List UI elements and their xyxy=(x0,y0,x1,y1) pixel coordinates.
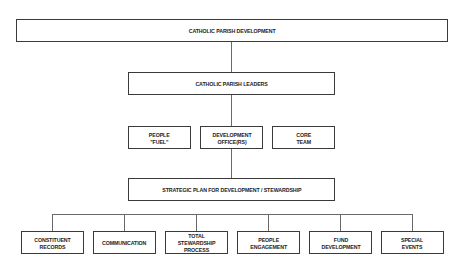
connector-drop-2 xyxy=(124,214,125,231)
box-label: CORE TEAM xyxy=(296,131,311,145)
connector-drop-1 xyxy=(52,214,53,231)
box-catholic-parish-development: CATHOLIC PARISH DEVELOPMENT xyxy=(16,19,448,42)
box-label: TOTAL STEWARDSHIP PROCESS xyxy=(171,232,223,253)
connector-drop-4 xyxy=(268,214,269,231)
box-constituent-records: CONSTITUENT RECORDS xyxy=(21,231,84,254)
connector-drop-6 xyxy=(412,214,413,231)
box-label: CONSTITUENT RECORDS xyxy=(34,236,70,250)
box-people-fuel: PEOPLE "FUEL" xyxy=(128,126,191,149)
box-label: PEOPLE "FUEL" xyxy=(149,131,170,145)
connector-drop-3 xyxy=(196,214,197,231)
connector-bottom-bus xyxy=(52,214,412,215)
box-label: PEOPLE ENGAGEMENT xyxy=(250,236,287,250)
box-label: COMMUNICATION xyxy=(102,239,146,246)
box-label: CATHOLIC PARISH DEVELOPMENT xyxy=(189,27,276,34)
box-label: SPECIAL EVENTS xyxy=(401,236,423,250)
box-label: CATHOLIC PARISH LEADERS xyxy=(195,80,267,87)
box-catholic-parish-leaders: CATHOLIC PARISH LEADERS xyxy=(128,72,335,95)
box-strategic-plan: STRATEGIC PLAN FOR DEVELOPMENT / STEWARD… xyxy=(128,178,335,201)
box-core-team: CORE TEAM xyxy=(272,126,335,149)
box-people-engagement: PEOPLE ENGAGEMENT xyxy=(237,231,300,254)
connector-leaders-to-development-office xyxy=(231,94,232,126)
box-communication: COMMUNICATION xyxy=(93,231,156,254)
box-development-offices: DEVELOPMENT OFFICE(RS) xyxy=(200,126,263,149)
box-special-events: SPECIAL EVENTS xyxy=(381,231,444,254)
box-label: FUND DEVELOPMENT xyxy=(321,236,360,250)
connector-development-office-to-strategic xyxy=(231,148,232,178)
connector-drop-5 xyxy=(340,214,341,231)
connector-top-to-leaders xyxy=(231,41,232,72)
box-label: DEVELOPMENT OFFICE(RS) xyxy=(212,131,251,145)
box-label: STRATEGIC PLAN FOR DEVELOPMENT / STEWARD… xyxy=(162,186,301,193)
box-total-stewardship-process: TOTAL STEWARDSHIP PROCESS xyxy=(165,231,228,254)
box-fund-development: FUND DEVELOPMENT xyxy=(309,231,372,254)
